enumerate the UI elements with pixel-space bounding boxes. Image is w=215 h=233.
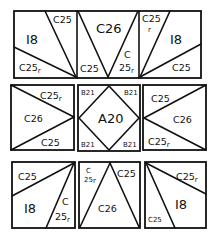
unit-middle-left: C26 C25r C25 bbox=[11, 85, 74, 150]
patch-label-c25: C25 bbox=[148, 216, 162, 224]
patch-label-c26: C26 bbox=[24, 113, 43, 124]
top-row: I8 C25 C25r C26 C25 C 25r I8 C25 r C25 bbox=[14, 11, 201, 78]
patch-label-c25: C25 bbox=[142, 13, 161, 24]
patch-label-c25: C25 bbox=[80, 63, 99, 74]
patch-label-i8: I8 bbox=[24, 201, 36, 216]
patch-label-b21: B21 bbox=[81, 89, 95, 97]
patch-label-c25: C25 bbox=[151, 93, 170, 104]
patch-label-b21: B21 bbox=[81, 141, 95, 149]
patch-label-c25: C25 bbox=[41, 137, 60, 148]
patch-label-c25: C25 bbox=[117, 168, 136, 179]
patch-label-c26: C26 bbox=[96, 21, 122, 36]
patch-label-c: C bbox=[62, 196, 69, 207]
patch-label-c: C bbox=[124, 49, 131, 60]
bottom-row: I8 C25 C 25r C26 C 25r C25 I8 C25r C25 bbox=[12, 162, 206, 228]
patch-label-i8: I8 bbox=[175, 197, 187, 212]
patch-label-b21: B21 bbox=[124, 89, 138, 97]
patch-label-c25: C25 bbox=[53, 14, 72, 25]
patch-label-c25: C25 bbox=[18, 171, 37, 182]
patch-label-b21: B21 bbox=[123, 141, 137, 149]
patch-label-c26: C26 bbox=[98, 203, 117, 214]
patch-label-suffix-r: r bbox=[148, 26, 151, 34]
patch-label-a20: A20 bbox=[98, 111, 123, 126]
unit-bottom-center: C26 C 25r C25 bbox=[79, 162, 140, 228]
patch-label-i8: I8 bbox=[26, 32, 38, 47]
patch-label-25r: 25r bbox=[84, 176, 96, 185]
unit-bottom-left: I8 C25 C 25r bbox=[12, 162, 75, 228]
unit-bottom-right: I8 C25r C25 bbox=[145, 162, 206, 228]
patch-label-c: C bbox=[86, 167, 91, 175]
patch-label-i8: I8 bbox=[170, 32, 182, 47]
middle-row: C26 C25r C25 A20 B21 B21 B21 B21 C26 C25… bbox=[11, 85, 206, 151]
patch-label-c26: C26 bbox=[173, 114, 192, 125]
unit-middle-right: C26 C25 C25r bbox=[143, 85, 206, 150]
quilt-diagram: I8 C25 C25r C26 C25 C 25r I8 C25 r C25 bbox=[0, 0, 215, 233]
unit-middle-center: A20 B21 B21 B21 B21 bbox=[78, 85, 140, 151]
patch-label-c25: C25 bbox=[172, 62, 191, 73]
